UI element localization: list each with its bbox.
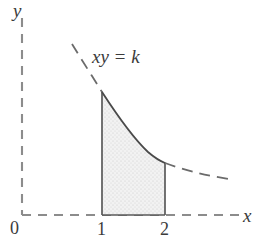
y-axis-label: y	[13, 1, 21, 20]
x-axis-label: x	[243, 206, 251, 225]
x-tick-label-1: 1	[97, 220, 106, 238]
hyperbola-curve-dashed-right	[165, 163, 228, 179]
x-tick-label-2: 2	[160, 220, 169, 238]
curve-equation-label: xy = k	[92, 47, 140, 66]
origin-label: 0	[10, 219, 19, 237]
shaded-region	[102, 92, 165, 215]
figure-canvas	[0, 0, 268, 252]
hyperbola-region-figure: y x 0 1 2 xy = k	[0, 0, 268, 252]
